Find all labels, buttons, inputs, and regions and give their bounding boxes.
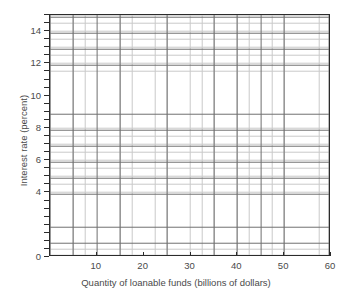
- y-tick-label: 8: [36, 121, 41, 132]
- y-tick-mark: [44, 159, 50, 160]
- x-tick-label: 60: [325, 260, 336, 271]
- x-tick-mark: [96, 252, 97, 256]
- chart-figure: 102030405060 0468101214 Quantity of loan…: [0, 0, 352, 300]
- y-tick-mark: [44, 38, 50, 39]
- y-tick-mark: [44, 103, 50, 104]
- x-tick-mark: [330, 252, 331, 256]
- y-tick-label: 10: [30, 89, 41, 100]
- x-tick-label: 30: [184, 260, 195, 271]
- y-tick-mark: [44, 256, 50, 257]
- y-tick-mark: [44, 143, 50, 144]
- x-tick-mark: [283, 252, 284, 256]
- y-tick-mark: [44, 167, 50, 168]
- y-tick-mark: [44, 248, 50, 249]
- y-tick-mark: [44, 46, 50, 47]
- y-tick-mark: [44, 240, 50, 241]
- y-tick-mark: [44, 232, 50, 233]
- y-tick-label: 4: [36, 186, 41, 197]
- x-tick-mark: [190, 252, 191, 256]
- y-tick-mark: [44, 127, 50, 128]
- x-tick-mark: [143, 252, 144, 256]
- y-tick-mark: [44, 30, 50, 31]
- y-tick-mark: [44, 95, 50, 96]
- y-tick-mark: [44, 208, 50, 209]
- y-tick-mark: [44, 111, 50, 112]
- y-tick-label: 14: [30, 25, 41, 36]
- y-tick-mark: [44, 191, 50, 192]
- plot-area: [49, 14, 330, 256]
- x-tick-label: 10: [91, 260, 102, 271]
- y-tick-label: 6: [36, 154, 41, 165]
- y-tick-label: 0: [36, 251, 41, 262]
- y-tick-mark: [44, 119, 50, 120]
- y-tick-mark: [44, 62, 50, 63]
- x-tick-label: 20: [137, 260, 148, 271]
- y-tick-mark: [44, 183, 50, 184]
- x-tick-mark: [236, 252, 237, 256]
- y-tick-mark: [44, 70, 50, 71]
- y-axis-title: Interest rate (percent): [18, 61, 29, 221]
- grid-major-lines: [50, 15, 329, 255]
- y-tick-mark: [44, 87, 50, 88]
- y-tick-mark: [44, 175, 50, 176]
- y-tick-mark: [44, 224, 50, 225]
- y-tick-mark: [44, 135, 50, 136]
- y-tick-label: 12: [30, 57, 41, 68]
- y-tick-mark: [44, 200, 50, 201]
- y-tick-mark: [44, 151, 50, 152]
- y-tick-mark: [44, 79, 50, 80]
- y-tick-mark: [44, 22, 50, 23]
- x-tick-label: 50: [278, 260, 289, 271]
- x-tick-label: 40: [231, 260, 242, 271]
- y-tick-mark: [44, 14, 50, 15]
- y-tick-mark: [44, 216, 50, 217]
- x-axis-title: Quantity of loanable funds (billions of …: [0, 277, 352, 288]
- y-tick-mark: [44, 54, 50, 55]
